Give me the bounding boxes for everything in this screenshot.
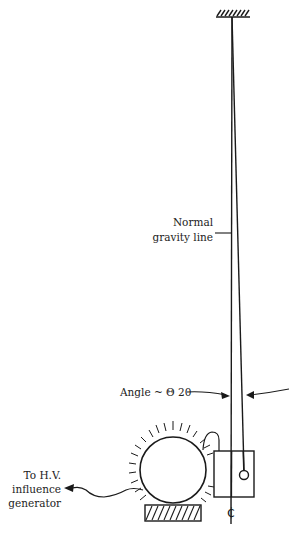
svg-text:To H.V.: To H.V. bbox=[24, 469, 61, 481]
pendulum-diagram: Normal gravity line Angle ~ Θ 20 bbox=[0, 0, 289, 537]
svg-text:Normal: Normal bbox=[173, 216, 214, 228]
svg-text:influence: influence bbox=[12, 483, 61, 495]
string-in-box bbox=[243, 451, 244, 471]
svg-text:gravity line: gravity line bbox=[153, 231, 213, 243]
angle-label: Angle ~ Θ 20 bbox=[119, 386, 289, 399]
gravity-line-label: Normal gravity line bbox=[153, 216, 231, 243]
arrow-left-icon bbox=[246, 391, 254, 399]
svg-text:generator: generator bbox=[8, 497, 62, 509]
generator-wire bbox=[72, 487, 143, 497]
sphere-to-box-wire bbox=[203, 432, 219, 451]
arrow-left-icon bbox=[64, 484, 74, 492]
pendulum-bob bbox=[240, 471, 249, 480]
generator-label: To H.V. influence generator bbox=[8, 469, 62, 509]
insulating-base bbox=[145, 505, 201, 521]
svg-text:Angle ~ Θ 20: Angle ~ Θ 20 bbox=[119, 386, 191, 398]
gravity-line bbox=[231, 17, 232, 524]
centerline-symbol: ₵ bbox=[227, 505, 235, 520]
deflected-string bbox=[232, 17, 244, 471]
ceiling-support bbox=[216, 10, 250, 17]
charged-sphere bbox=[140, 437, 206, 503]
arrow-right-icon bbox=[221, 392, 230, 399]
